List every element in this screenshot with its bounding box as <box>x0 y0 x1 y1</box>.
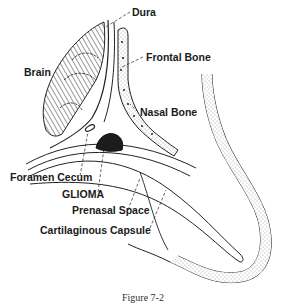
figure-caption: Figure 7-2 <box>0 292 286 303</box>
frontal-nasal-bone <box>118 28 178 156</box>
nasal-outline-inner <box>178 74 261 273</box>
glioma-mass <box>96 134 123 152</box>
label-glioma: GLIOMA <box>62 188 104 200</box>
label-brain: Brain <box>24 66 51 78</box>
brain-shape <box>43 22 104 136</box>
label-frontal-bone: Frontal Bone <box>146 51 211 63</box>
label-cartilaginous-capsule: Cartilaginous Capsule <box>40 224 151 236</box>
anatomical-figure: Dura Brain Frontal Bone Nasal Bone Foram… <box>0 0 286 308</box>
label-nasal-bone: Nasal Bone <box>140 106 197 118</box>
label-prenasal-space: Prenasal Space <box>72 204 150 216</box>
nasal-glioma-diagram <box>0 0 286 308</box>
label-foramen-cecum: Foramen Cecum <box>10 171 92 183</box>
label-dura: Dura <box>132 6 156 18</box>
dura-inner-line <box>104 22 115 122</box>
